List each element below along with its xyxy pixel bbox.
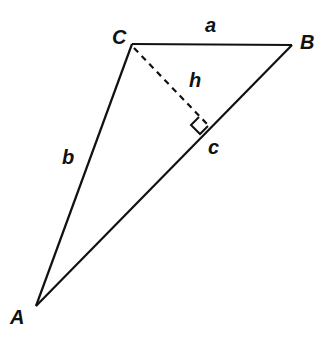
side-a [132, 44, 292, 45]
vertex-label-a: A [9, 306, 24, 328]
vertex-label-b: B [300, 31, 314, 53]
side-label-b: b [62, 146, 74, 168]
vertex-label-c: C [112, 26, 127, 48]
altitude-label-h: h [189, 69, 201, 91]
side-label-c: c [208, 136, 219, 158]
right-angle-marker [191, 117, 208, 134]
triangle-diagram: C B A a b c h [0, 0, 334, 351]
side-label-a: a [205, 14, 216, 36]
side-c [36, 45, 292, 306]
side-b [36, 44, 132, 306]
